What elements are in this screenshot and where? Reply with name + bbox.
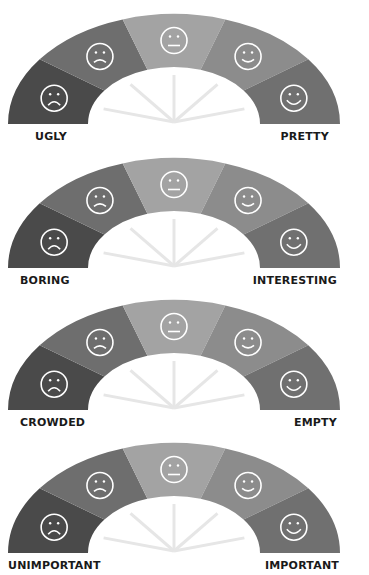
rating-scale-2: CROWDEDEMPTY [0, 298, 369, 441]
right-label: INTERESTING [253, 274, 337, 287]
left-label: UGLY [35, 130, 67, 143]
right-label: IMPORTANT [265, 559, 339, 572]
left-label: CROWDED [20, 416, 85, 429]
arrow-icon [174, 395, 244, 408]
arrow-icon [104, 109, 174, 122]
arrow-icon [104, 538, 174, 551]
right-label: PRETTY [281, 130, 329, 143]
arrow-icon [104, 253, 174, 266]
left-label: UNIMPORTANT [8, 559, 101, 572]
arrow-icon [174, 538, 244, 551]
left-label: BORING [20, 274, 70, 287]
arrow-icon [104, 395, 174, 408]
rating-scale-3: UNIMPORTANTIMPORTANT [0, 441, 369, 575]
rating-scale-0: UGLYPRETTY [0, 12, 369, 155]
arrow-icon [174, 253, 244, 266]
arrow-icon [174, 109, 244, 122]
right-label: EMPTY [294, 416, 337, 429]
rating-scale-1: BORINGINTERESTING [0, 156, 369, 299]
